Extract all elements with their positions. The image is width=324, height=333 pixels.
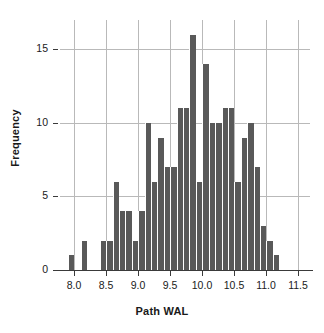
y-tick-label: 10 [20,116,48,128]
x-tick-mark [266,271,267,276]
x-axis-title: Path WAL [0,305,324,317]
x-tick-mark [234,271,235,276]
x-tick-mark [298,271,299,276]
y-tick-label: 0 [20,263,48,275]
y-tick-mark [53,270,58,271]
x-tick-label: 11.5 [278,279,318,291]
x-tick-mark [202,271,203,276]
histogram-bar [81,241,87,270]
y-tick-label: 5 [20,189,48,201]
plot-area [60,20,310,270]
x-axis-line [55,270,313,271]
x-axis-title-label: Path WAL [136,305,189,317]
y-tick-mark [53,196,58,197]
x-tick-mark [74,271,75,276]
x-tick-mark [138,271,139,276]
x-tick-mark [106,271,107,276]
histogram-bars [60,20,310,270]
y-tick-label: 15 [20,42,48,54]
y-tick-mark [53,123,58,124]
histogram-bar [273,255,279,270]
y-tick-mark [53,49,58,50]
histogram-figure: Frequency 8.08.59.09.510.010.511.011.5 0… [0,0,324,333]
x-tick-mark [170,271,171,276]
histogram-bar [68,255,74,270]
